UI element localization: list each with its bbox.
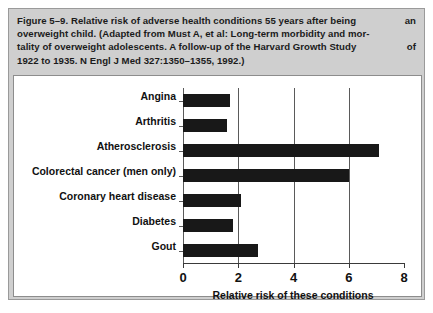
bar-row: Coronary heart disease — [183, 188, 404, 213]
bar — [183, 94, 230, 107]
bar — [183, 119, 227, 132]
category-label: Arthritis — [135, 115, 176, 128]
bar-row: Arthritis — [183, 113, 404, 138]
category-label: Gout — [152, 240, 177, 253]
category-label: Diabetes — [132, 215, 176, 228]
category-label: Angina — [140, 90, 176, 103]
caption-line-3-right: of — [407, 40, 416, 53]
caption-line-1: Figure 5–9. Relative risk of adverse hea… — [17, 14, 416, 27]
category-label: Atherosclerosis — [97, 140, 176, 153]
bar-row: Atherosclerosis — [183, 138, 404, 163]
category-label: Colorectal cancer (men only) — [32, 165, 176, 178]
x-axis-tick-label: 8 — [400, 270, 407, 285]
bar-row: Angina — [183, 88, 404, 113]
x-axis-title: Relative risk of these conditions — [212, 289, 373, 301]
x-axis-tick — [238, 263, 239, 268]
x-axis-tick — [349, 263, 350, 268]
x-axis-tick — [404, 263, 405, 268]
x-axis-tick-label: 4 — [290, 270, 297, 285]
figure-caption: Figure 5–9. Relative risk of adverse hea… — [9, 9, 424, 72]
bar — [183, 219, 233, 232]
plot-area: AnginaArthritisAtherosclerosisColorectal… — [183, 88, 404, 263]
x-axis-tick-label: 6 — [345, 270, 352, 285]
x-axis-tick-label: 0 — [179, 270, 186, 285]
x-axis-tick-label: 2 — [235, 270, 242, 285]
x-axis-tick — [294, 263, 295, 268]
caption-line-3: tality of overweight adolescents. A foll… — [17, 40, 416, 53]
bar — [183, 194, 241, 207]
bar-row: Colorectal cancer (men only) — [183, 163, 404, 188]
bar — [183, 169, 349, 182]
caption-line-4: 1922 to 1935. N Engl J Med 327:1350–1355… — [17, 54, 416, 67]
bar — [183, 144, 379, 157]
bar-row: Diabetes — [183, 213, 404, 238]
x-axis-tick — [183, 263, 184, 268]
caption-line-1-left: Figure 5–9. Relative risk of adverse hea… — [17, 14, 356, 27]
caption-line-2: overweight child. (Adapted from Must A, … — [17, 27, 416, 40]
figure-container: Figure 5–9. Relative risk of adverse hea… — [8, 8, 425, 300]
category-label: Coronary heart disease — [59, 190, 176, 203]
caption-line-3-left: tality of overweight adolescents. A foll… — [17, 40, 356, 53]
bar — [183, 244, 258, 257]
bar-row: Gout — [183, 238, 404, 263]
caption-line-1-right: an — [405, 14, 416, 27]
chart-panel: AnginaArthritisAtherosclerosisColorectal… — [13, 75, 422, 297]
